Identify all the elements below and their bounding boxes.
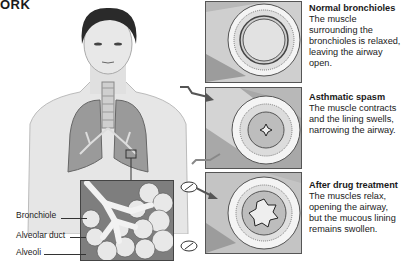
caption-normal: Normal bronchioles The muscle surroundin… xyxy=(309,3,401,69)
caption-body: The muscle contracts and the lining swel… xyxy=(309,103,396,135)
drug-arrow-icon xyxy=(196,186,220,202)
caption-spasm: Asthmatic spasm The muscle contracts and… xyxy=(309,92,401,136)
treated-bronchiole-cross-section xyxy=(206,173,301,253)
caption-body: The muscle surrounding the bronchioles i… xyxy=(309,14,400,68)
caption-title: After drug treatment xyxy=(309,180,401,191)
label-bronchiole: Bronchiole xyxy=(16,210,56,220)
panel-normal-bronchioles xyxy=(205,1,302,83)
alveoli-illustration xyxy=(81,181,173,260)
caption-title: Asthmatic spasm xyxy=(309,92,401,103)
label-alveoli: Alveoli xyxy=(16,247,41,257)
pill-icon xyxy=(180,240,198,252)
bronchiole-cross-section xyxy=(206,2,301,82)
leader-line xyxy=(61,218,87,219)
wavy-arrow-icon xyxy=(190,148,230,168)
wavy-arrow-icon xyxy=(178,83,218,123)
caption-treated: After drug treatment The muscles relax, … xyxy=(309,180,401,235)
alveoli-inset xyxy=(80,180,174,261)
label-alveolar-duct: Alveolar duct xyxy=(16,230,65,240)
caption-body: The muscles relax, opening the airway, b… xyxy=(309,191,396,234)
leader-line xyxy=(70,237,86,238)
leader-line xyxy=(44,254,86,255)
panel-after-drug-treatment xyxy=(205,172,302,254)
caption-title: Normal bronchioles xyxy=(309,3,401,14)
